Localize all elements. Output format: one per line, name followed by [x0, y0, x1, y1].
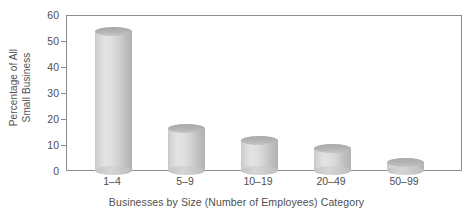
bar-2-bottom — [241, 166, 278, 175]
bar-0-bottom — [95, 166, 132, 175]
plot-area — [66, 15, 462, 171]
x-tick-label-0: 1–4 — [103, 175, 121, 187]
y-tick-label-0: 0 — [33, 165, 59, 177]
x-tick-label-1: 5–9 — [176, 175, 194, 187]
bar-4 — [387, 158, 424, 170]
y-tick-label-50: 50 — [33, 35, 59, 47]
x-tick-label-3: 20–49 — [316, 175, 345, 187]
bar-0-top — [95, 27, 132, 36]
y-tick-label-60: 60 — [33, 9, 59, 21]
y-tick-label-10: 10 — [33, 139, 59, 151]
y-tick-label-40: 40 — [33, 61, 59, 73]
bar-1 — [168, 124, 205, 171]
bar-chart-figure: Percentage of All Small Business 60 50 4… — [0, 0, 473, 220]
y-tick-label-20: 20 — [33, 113, 59, 125]
x-tick-label-4: 50–99 — [389, 175, 418, 187]
bar-0 — [95, 27, 132, 170]
bar-0-body — [95, 31, 132, 170]
bar-3 — [314, 144, 351, 170]
x-axis-title: Businesses by Size (Number of Employees)… — [0, 196, 473, 208]
bar-1-bottom — [168, 166, 205, 175]
bar-2 — [241, 136, 278, 170]
y-tick-label-30: 30 — [33, 87, 59, 99]
y-axis-title-line-2: Small Business — [21, 49, 34, 126]
bar-3-bottom — [314, 166, 351, 175]
bar-1-top — [168, 124, 205, 133]
bar-1-body — [168, 128, 205, 170]
x-tick-label-2: 10–19 — [243, 175, 272, 187]
y-axis-title-line-1: Percentage of All — [9, 49, 22, 126]
